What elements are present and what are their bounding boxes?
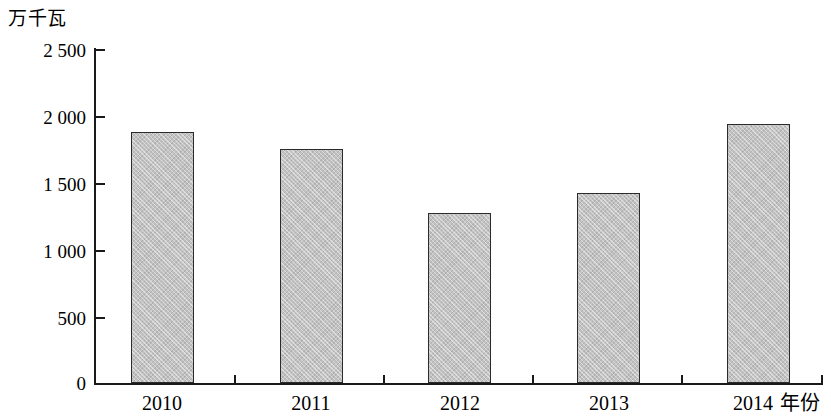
y-tick-label-0-wrap: 0	[0, 374, 86, 393]
x-tick-label-2010: 2010	[112, 392, 212, 414]
y-axis-unit-label: 万千瓦	[8, 8, 67, 30]
bar-2010	[131, 132, 194, 383]
y-tick-label-2500-wrap: 2 500	[0, 41, 86, 60]
y-axis-line	[94, 48, 96, 385]
y-tick-mark-2000	[94, 116, 105, 118]
x-tick-label-2013: 2013	[559, 392, 659, 414]
y-tick-mark-2500	[94, 49, 105, 51]
x-axis-title: 年份	[780, 392, 820, 414]
y-tick-label-2000-wrap: 2 000	[0, 108, 86, 127]
bar-2013	[577, 193, 640, 383]
x-axis-line	[94, 383, 823, 385]
y-tick-label-1500: 1 500	[2, 175, 86, 194]
y-tick-label-2500: 2 500	[2, 41, 86, 60]
x-tick-label-2012: 2012	[410, 392, 510, 414]
x-tick-mark-2	[383, 375, 385, 384]
x-tick-mark-4	[681, 375, 683, 384]
y-tick-mark-500	[94, 317, 105, 319]
bar-chart: 万千瓦 2 500 2 000 1 500 1 000 500 0 2010 2…	[0, 0, 831, 420]
bar-2014	[727, 124, 790, 383]
y-tick-mark-1000	[94, 250, 105, 252]
bar-2011	[280, 149, 343, 383]
y-tick-label-500: 500	[2, 309, 86, 328]
y-tick-label-500-wrap: 500	[0, 309, 86, 328]
x-tick-mark-3	[532, 375, 534, 384]
x-axis-end-cap	[821, 375, 823, 385]
y-tick-label-0: 0	[2, 374, 86, 393]
y-tick-mark-1500	[94, 183, 105, 185]
y-tick-label-2000: 2 000	[2, 108, 86, 127]
x-tick-mark-1	[234, 375, 236, 384]
bar-2012	[428, 213, 491, 383]
y-tick-label-1000-wrap: 1 000	[0, 242, 86, 261]
x-tick-label-2011: 2011	[261, 392, 361, 414]
y-tick-label-1500-wrap: 1 500	[0, 175, 86, 194]
y-tick-label-1000: 1 000	[2, 242, 86, 261]
